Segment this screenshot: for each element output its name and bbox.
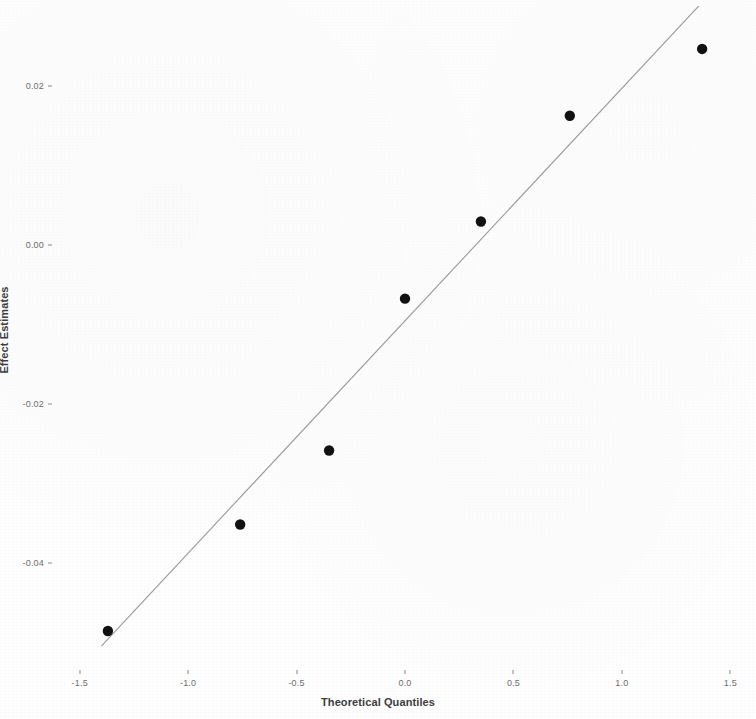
- y-tick-mark: [48, 85, 52, 86]
- x-axis: -1.5-1.0-0.50.00.51.01.5 Theoretical Qua…: [0, 666, 756, 719]
- y-tick-label: -0.02: [22, 399, 44, 409]
- x-tick-label: 0.0: [398, 678, 411, 688]
- data-point: [400, 293, 410, 303]
- y-axis-title: Effect Estimates: [0, 286, 10, 373]
- x-tick-label: -1.0: [180, 678, 196, 688]
- data-point: [697, 44, 707, 54]
- data-point: [476, 216, 486, 226]
- x-tick-label: 1.0: [615, 678, 628, 688]
- y-tick-mark: [48, 244, 52, 245]
- x-tick-mark: [621, 670, 622, 674]
- data-point: [103, 626, 113, 636]
- x-tick-mark: [513, 670, 514, 674]
- x-tick-mark: [405, 670, 406, 674]
- plot-data-layer: [58, 6, 752, 666]
- data-point: [565, 111, 575, 121]
- x-tick-mark: [296, 670, 297, 674]
- data-point: [324, 445, 334, 455]
- x-tick-mark: [79, 670, 80, 674]
- data-point: [235, 519, 245, 529]
- x-tick-mark: [730, 670, 731, 674]
- y-tick-mark: [48, 562, 52, 563]
- plot-panel: [58, 6, 752, 666]
- x-tick-label: 0.5: [507, 678, 520, 688]
- x-tick-mark: [188, 670, 189, 674]
- qq-reference-line: [101, 6, 717, 646]
- qq-plot-figure: 0.020.00-0.02-0.04 Effect Estimates -1.5…: [0, 0, 756, 719]
- x-tick-label: -0.5: [288, 678, 304, 688]
- y-tick-label: -0.04: [22, 558, 44, 568]
- x-axis-title: Theoretical Quantiles: [321, 696, 435, 708]
- y-tick-label: 0.00: [26, 240, 44, 250]
- y-tick-label: 0.02: [26, 81, 44, 91]
- y-axis: 0.020.00-0.02-0.04 Effect Estimates: [0, 0, 58, 719]
- y-tick-mark: [48, 403, 52, 404]
- x-tick-label: -1.5: [72, 678, 88, 688]
- x-tick-label: 1.5: [724, 678, 737, 688]
